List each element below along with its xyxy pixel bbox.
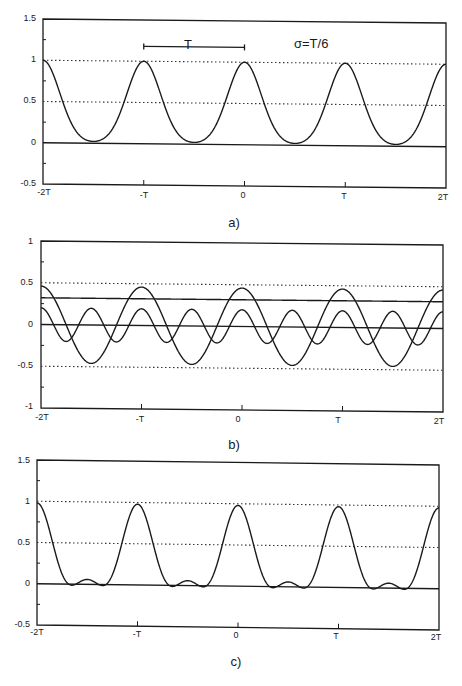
y-tick-label: -1 — [3, 401, 33, 411]
plot-c-canvas — [0, 460, 462, 686]
y-tick-label: 1 — [6, 54, 36, 64]
x-tick-label: T — [326, 415, 350, 425]
period-bracket-label: T — [184, 37, 192, 52]
y-tick-label: 0.5 — [0, 537, 30, 547]
plot-b-canvas — [0, 230, 462, 460]
reference-line-dotted — [37, 543, 439, 548]
y-tick-label: 0 — [6, 137, 36, 147]
x-tick-label: 0 — [224, 630, 248, 640]
x-tick-label: -2T — [25, 627, 49, 637]
y-tick-label: 1.5 — [6, 13, 36, 23]
x-tick-label: 2T — [424, 632, 448, 642]
x-tick-label: -T — [132, 190, 156, 200]
caption-a: a) — [214, 215, 254, 230]
y-tick-label: 0.5 — [6, 95, 36, 105]
caption-b: b) — [214, 437, 254, 452]
y-tick-label: 0.5 — [3, 277, 33, 287]
y-tick-label: 1 — [0, 496, 30, 506]
x-tick-label: T — [324, 631, 348, 641]
y-tick-label: 0 — [3, 319, 33, 329]
y-tick-label: 1.5 — [0, 455, 30, 465]
x-tick-label: -2T — [30, 412, 54, 422]
reference-line-dotted — [41, 366, 443, 370]
y-tick-label: 1 — [3, 236, 33, 246]
period-bracket — [144, 46, 245, 47]
panel-b: 1 0.5 0 -0.5 -1 -2T -T 0 T 2T b) — [0, 230, 462, 460]
reference-line-dotted — [41, 283, 443, 287]
x-tick-label: 0 — [231, 190, 255, 200]
sigma-annotation: σ=T/6 — [294, 36, 328, 51]
x-tick-label: -T — [125, 629, 149, 639]
panel-c: 1.5 1 0.5 0 -0.5 -2T -T 0 T 2T c) — [0, 460, 462, 686]
caption-c: c) — [216, 654, 256, 669]
zero-line — [41, 325, 443, 329]
plot-frame — [43, 19, 446, 188]
x-tick-label: 0 — [226, 414, 250, 424]
x-tick-label: 2T — [431, 192, 455, 202]
x-tick-label: -T — [128, 414, 152, 424]
y-tick-label: -0.5 — [3, 360, 33, 370]
zero-line — [43, 143, 446, 147]
x-tick-label: -2T — [32, 187, 56, 197]
x-tick-label: 2T — [427, 416, 451, 426]
y-tick-label: 0 — [0, 578, 30, 588]
reconstructed-sum-curve — [37, 503, 439, 589]
x-tick-label: T — [332, 191, 356, 201]
dc-component-line — [41, 298, 443, 302]
panel-a: 1.5 1 0.5 0 -0.5 -2T -T 0 T 2T σ=T/6 T a… — [0, 0, 462, 230]
reference-line-dotted — [43, 102, 446, 106]
